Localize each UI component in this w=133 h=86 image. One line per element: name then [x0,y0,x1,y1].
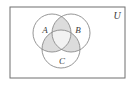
venn-diagram-canvas: A B C U [0,0,133,86]
universal-set-label: U [113,10,121,21]
venn-diagram-figure: A B C U [0,0,133,86]
set-label-c: C [59,56,66,66]
set-label-a: A [41,25,48,35]
set-label-b: B [75,25,81,35]
